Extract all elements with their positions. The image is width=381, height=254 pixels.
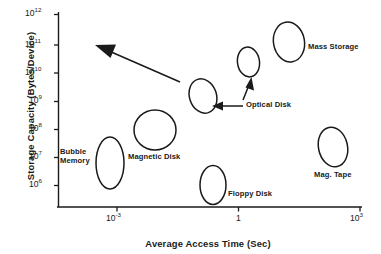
region-ellipse-floppy-disk	[200, 166, 226, 205]
y-axis-title: Storage Capacity (Bytes/Device)	[25, 32, 36, 180]
chart-figure: 1012 1011 1010 109 108 107 106 10-3 1 10…	[0, 0, 381, 254]
chart-plot-area	[0, 0, 381, 254]
region-label-bubble-memory-line1: Bubble	[60, 147, 86, 156]
region-label-optical-disk: Optical Disk	[246, 101, 291, 110]
region-ellipse-mass-storage	[270, 20, 307, 65]
trend-arrow-icon	[95, 45, 180, 83]
region-ellipse-magnetic-disk	[134, 110, 176, 150]
x-tick-label-1e3: 103	[350, 213, 363, 223]
region-ellipse-mag-tape	[315, 124, 352, 169]
x-tick-label-1e-3: 10-3	[106, 213, 121, 223]
region-ellipse-optical-disk-upper	[236, 46, 262, 79]
region-label-magnetic-disk: Magnetic Disk	[128, 153, 180, 162]
region-label-mass-storage: Mass Storage	[308, 43, 359, 52]
x-axis-title: Average Access Time (Sec)	[145, 238, 270, 249]
y-tick-label-1e12: 1012	[25, 8, 41, 18]
region-label-bubble-memory: Bubble Memory	[60, 148, 90, 166]
x-tick-label-1: 1	[236, 213, 241, 223]
region-ellipse-optical-disk-lower	[185, 75, 221, 117]
region-ellipse-bubble-memory	[96, 137, 124, 189]
region-label-bubble-memory-line2: Memory	[60, 156, 90, 165]
optical-disk-leader-upper-icon	[243, 77, 254, 100]
region-label-mag-tape: Mag. Tape	[314, 171, 351, 180]
y-axis-title-container: Storage Capacity (Bytes/Device)	[20, 21, 38, 191]
x-axis-title-container: Average Access Time (Sec)	[55, 233, 361, 251]
region-label-floppy-disk: Floppy Disk	[228, 190, 272, 199]
